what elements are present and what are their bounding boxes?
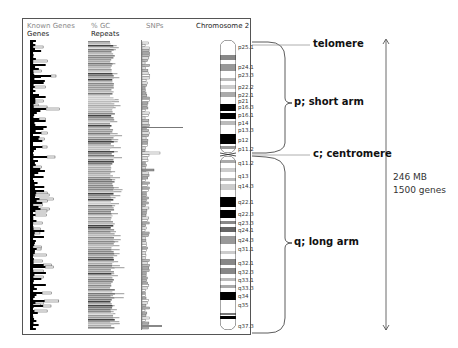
band-label: q22.3: [238, 211, 254, 217]
band-label: p13.3: [238, 127, 254, 133]
size-length: 246 MB: [393, 171, 427, 184]
band-label: p22.2: [238, 84, 254, 90]
band-label: p24.1: [238, 64, 254, 70]
chromosome-ideogram: [0, 0, 458, 348]
long-arm-label: q; long arm: [294, 236, 359, 247]
band-label: q37.3: [238, 323, 254, 329]
band-label: p16.1: [238, 112, 254, 118]
long-arm-brace: [252, 156, 292, 333]
band-label: p25.1: [238, 44, 254, 50]
band-label: p12: [238, 137, 249, 143]
band-label: q23.3: [238, 220, 254, 226]
band-label: q14.3: [238, 183, 254, 189]
band-label: q11.2: [238, 160, 254, 166]
band-label: q13: [238, 173, 249, 179]
band-label: q22.1: [238, 199, 254, 205]
band-label: q32.3: [238, 269, 254, 275]
p-arm: [220, 40, 236, 153]
band-label: p11.2: [238, 146, 254, 152]
band-label: q34: [238, 293, 249, 299]
band-label: q32.1: [238, 260, 254, 266]
band-label: q24.3: [238, 237, 254, 243]
band-label: p14: [238, 120, 249, 126]
band-label: q33.3: [238, 285, 254, 291]
band-label: q31.1: [238, 246, 254, 252]
band-label: q24.1: [238, 227, 254, 233]
q-arm: [220, 156, 236, 330]
size-genes: 1500 genes: [393, 184, 446, 197]
band-label: q33.1: [238, 277, 254, 283]
centromere-label: c; centromere: [313, 148, 392, 159]
band-label: q35: [238, 302, 249, 308]
short-arm-brace: [252, 42, 292, 153]
telomere-label: telomere: [313, 38, 364, 49]
short-arm-label: p; short arm: [294, 96, 364, 107]
band-label: p23.3: [238, 72, 254, 78]
centromere-pinch: [220, 153, 236, 156]
band-label: p16.3: [238, 104, 254, 110]
